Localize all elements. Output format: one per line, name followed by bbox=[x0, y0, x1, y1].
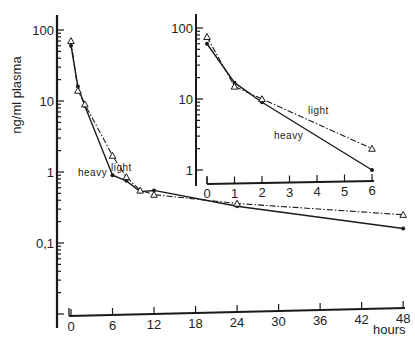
light-marker bbox=[82, 101, 89, 107]
heavy-marker bbox=[111, 173, 115, 177]
light-marker bbox=[75, 87, 82, 93]
x-tick-label: 0 bbox=[203, 186, 210, 201]
x-axis-title: hours bbox=[373, 322, 406, 337]
x-tick-label: 42 bbox=[354, 312, 368, 327]
y-tick-label: 100 bbox=[32, 23, 54, 38]
y-tick-label: 10 bbox=[40, 94, 54, 109]
x-tick-label: 6 bbox=[109, 318, 116, 333]
x-tick-label: 1 bbox=[231, 186, 238, 201]
heavy-marker bbox=[205, 42, 209, 46]
y-tick-label: 100 bbox=[171, 21, 193, 36]
main-label-light: light bbox=[111, 162, 132, 173]
inset-label-heavy: heavy bbox=[274, 130, 303, 141]
x-tick-label: 30 bbox=[271, 314, 285, 329]
light-marker bbox=[204, 34, 211, 40]
x-tick-label: 6 bbox=[368, 183, 375, 198]
main-label-heavy: heavy bbox=[78, 167, 107, 178]
y-tick-label: 1 bbox=[186, 163, 193, 178]
pharmacokinetic-chart: 1001010,10612182430364248 1001010123456 … bbox=[0, 0, 415, 340]
series-line-heavy bbox=[207, 44, 372, 170]
light-marker bbox=[259, 96, 266, 102]
x-tick-label: 0 bbox=[67, 319, 74, 334]
x-tick-label: 36 bbox=[313, 313, 327, 328]
x-tick-label: 5 bbox=[341, 184, 348, 199]
x-tick-label: 24 bbox=[230, 315, 244, 330]
light-marker bbox=[369, 145, 376, 151]
inset-axes: 1001010123456 bbox=[171, 14, 375, 201]
y-tick-label: 1 bbox=[47, 165, 54, 180]
x-tick-label: 12 bbox=[147, 317, 161, 332]
light-marker bbox=[123, 174, 130, 180]
light-marker bbox=[68, 38, 75, 44]
inset-series bbox=[204, 34, 376, 172]
y-axis-title: ng/ml plasma bbox=[9, 56, 24, 134]
y-tick-label: 10 bbox=[179, 92, 193, 107]
light-marker bbox=[109, 152, 116, 158]
x-tick-label: 2 bbox=[258, 185, 265, 200]
heavy-marker bbox=[370, 168, 374, 172]
main-series bbox=[68, 38, 407, 231]
x-tick-label: 4 bbox=[313, 184, 320, 199]
x-tick-label: 3 bbox=[286, 185, 293, 200]
heavy-marker bbox=[401, 227, 405, 231]
y-tick-label: 0,1 bbox=[36, 236, 54, 251]
x-tick-label: 18 bbox=[188, 316, 202, 331]
inset-label-light: light bbox=[308, 105, 329, 116]
